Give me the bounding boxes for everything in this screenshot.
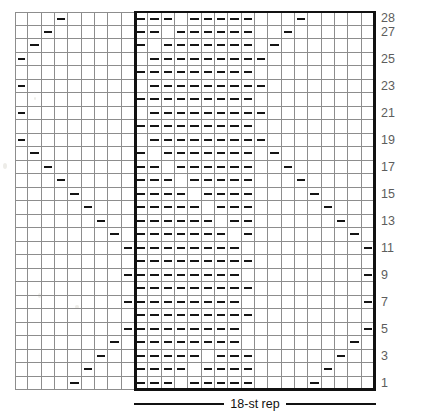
chart-cell-purl[interactable] — [268, 147, 281, 161]
chart-cell-purl[interactable] — [122, 323, 135, 337]
chart-cell-knit[interactable] — [322, 161, 335, 175]
chart-cell-knit[interactable] — [55, 228, 68, 242]
chart-cell-purl[interactable] — [202, 26, 215, 40]
chart-cell-knit[interactable] — [82, 53, 95, 67]
chart-cell-knit[interactable] — [95, 242, 108, 256]
chart-cell-purl[interactable] — [188, 201, 201, 215]
chart-cell-purl[interactable] — [135, 336, 148, 350]
chart-cell-purl[interactable] — [162, 309, 175, 323]
chart-cell-knit[interactable] — [95, 309, 108, 323]
chart-cell-knit[interactable] — [322, 228, 335, 242]
chart-cell-purl[interactable] — [148, 296, 161, 310]
chart-cell-knit[interactable] — [295, 120, 308, 134]
chart-cell-purl[interactable] — [148, 363, 161, 377]
chart-cell-knit[interactable] — [322, 66, 335, 80]
chart-cell-purl[interactable] — [228, 161, 241, 175]
chart-cell-knit[interactable] — [108, 161, 121, 175]
chart-cell-knit[interactable] — [255, 39, 268, 53]
chart-cell-knit[interactable] — [295, 188, 308, 202]
chart-cell-purl[interactable] — [162, 336, 175, 350]
chart-cell-purl[interactable] — [255, 80, 268, 94]
chart-cell-knit[interactable] — [68, 53, 81, 67]
chart-cell-knit[interactable] — [335, 309, 348, 323]
chart-cell-purl[interactable] — [348, 336, 361, 350]
chart-cell-knit[interactable] — [42, 296, 55, 310]
chart-cell-knit[interactable] — [28, 107, 41, 121]
chart-cell-knit[interactable] — [362, 161, 375, 175]
chart-cell-knit[interactable] — [122, 66, 135, 80]
chart-cell-purl[interactable] — [135, 188, 148, 202]
chart-cell-knit[interactable] — [68, 201, 81, 215]
chart-cell-knit[interactable] — [122, 174, 135, 188]
chart-cell-knit[interactable] — [362, 188, 375, 202]
chart-cell-knit[interactable] — [255, 309, 268, 323]
chart-cell-knit[interactable] — [295, 53, 308, 67]
chart-cell-knit[interactable] — [135, 107, 148, 121]
chart-cell-knit[interactable] — [108, 174, 121, 188]
chart-cell-knit[interactable] — [175, 12, 188, 26]
chart-cell-knit[interactable] — [68, 120, 81, 134]
chart-cell-knit[interactable] — [82, 336, 95, 350]
chart-cell-purl[interactable] — [162, 80, 175, 94]
chart-cell-knit[interactable] — [335, 161, 348, 175]
chart-cell-knit[interactable] — [15, 377, 28, 391]
chart-cell-knit[interactable] — [268, 201, 281, 215]
chart-cell-purl[interactable] — [215, 93, 228, 107]
chart-cell-knit[interactable] — [15, 255, 28, 269]
chart-cell-knit[interactable] — [68, 147, 81, 161]
chart-cell-knit[interactable] — [28, 93, 41, 107]
chart-cell-knit[interactable] — [28, 188, 41, 202]
chart-cell-knit[interactable] — [308, 269, 321, 283]
chart-cell-purl[interactable] — [228, 26, 241, 40]
chart-cell-knit[interactable] — [362, 309, 375, 323]
chart-cell-purl[interactable] — [228, 201, 241, 215]
chart-cell-purl[interactable] — [162, 377, 175, 391]
chart-cell-purl[interactable] — [175, 269, 188, 283]
chart-cell-knit[interactable] — [95, 147, 108, 161]
chart-cell-knit[interactable] — [42, 80, 55, 94]
chart-cell-knit[interactable] — [122, 80, 135, 94]
chart-cell-purl[interactable] — [175, 336, 188, 350]
chart-cell-knit[interactable] — [68, 39, 81, 53]
chart-cell-knit[interactable] — [15, 363, 28, 377]
chart-cell-knit[interactable] — [242, 269, 255, 283]
chart-cell-knit[interactable] — [122, 309, 135, 323]
chart-cell-knit[interactable] — [362, 53, 375, 67]
chart-cell-knit[interactable] — [55, 120, 68, 134]
chart-cell-purl[interactable] — [175, 296, 188, 310]
chart-cell-purl[interactable] — [242, 215, 255, 229]
chart-cell-purl[interactable] — [228, 377, 241, 391]
chart-cell-knit[interactable] — [82, 66, 95, 80]
chart-cell-knit[interactable] — [42, 363, 55, 377]
chart-cell-purl[interactable] — [202, 255, 215, 269]
chart-cell-purl[interactable] — [135, 215, 148, 229]
chart-cell-knit[interactable] — [322, 147, 335, 161]
chart-cell-knit[interactable] — [348, 26, 361, 40]
chart-cell-knit[interactable] — [28, 255, 41, 269]
chart-cell-purl[interactable] — [335, 350, 348, 364]
chart-cell-knit[interactable] — [295, 323, 308, 337]
chart-cell-purl[interactable] — [202, 269, 215, 283]
chart-cell-knit[interactable] — [335, 174, 348, 188]
chart-cell-knit[interactable] — [28, 282, 41, 296]
chart-cell-purl[interactable] — [135, 174, 148, 188]
chart-cell-purl[interactable] — [215, 350, 228, 364]
chart-cell-purl[interactable] — [148, 107, 161, 121]
chart-cell-purl[interactable] — [188, 80, 201, 94]
chart-cell-knit[interactable] — [322, 377, 335, 391]
chart-cell-knit[interactable] — [268, 282, 281, 296]
chart-cell-knit[interactable] — [268, 174, 281, 188]
chart-cell-purl[interactable] — [362, 242, 375, 256]
chart-cell-knit[interactable] — [308, 174, 321, 188]
chart-cell-purl[interactable] — [148, 80, 161, 94]
chart-cell-knit[interactable] — [68, 350, 81, 364]
chart-cell-knit[interactable] — [268, 242, 281, 256]
chart-cell-knit[interactable] — [295, 147, 308, 161]
chart-cell-purl[interactable] — [108, 228, 121, 242]
chart-cell-knit[interactable] — [42, 377, 55, 391]
chart-cell-knit[interactable] — [15, 269, 28, 283]
chart-cell-purl[interactable] — [335, 215, 348, 229]
chart-cell-purl[interactable] — [175, 134, 188, 148]
chart-cell-purl[interactable] — [228, 323, 241, 337]
chart-cell-purl[interactable] — [135, 323, 148, 337]
